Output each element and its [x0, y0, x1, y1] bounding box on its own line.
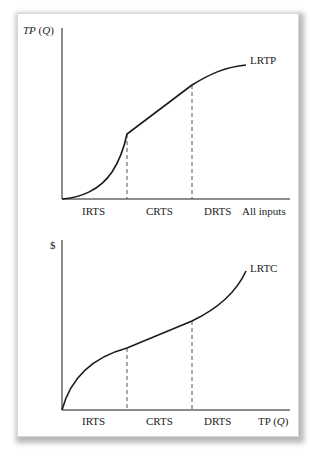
top-x-axis-label: All inputs [242, 205, 286, 217]
top-y-axis-label-q: Q [42, 24, 50, 36]
bottom-x-axis-label-q: Q [277, 415, 285, 427]
bottom-region-irts: IRTS [82, 415, 105, 427]
top-y-axis-label: TP (Q) [23, 24, 54, 36]
bottom-x-axis-label-tp: TP [258, 415, 270, 427]
top-region-irts: IRTS [82, 205, 105, 217]
bottom-x-axis-label: TP (Q) [258, 415, 288, 427]
bottom-region-drts: DRTS [204, 415, 231, 427]
lrtc-label: LRTC [250, 262, 277, 274]
top-y-axis-label-tp: TP [23, 24, 36, 36]
top-region-drts: DRTS [204, 205, 231, 217]
returns-to-scale-diagram [0, 0, 309, 452]
bottom-region-crts: CRTS [146, 415, 173, 427]
lrtc-curve [62, 271, 246, 410]
top-region-crts: CRTS [146, 205, 173, 217]
lrtp-curve [62, 65, 246, 199]
lrtp-label: LRTP [250, 54, 276, 66]
bottom-y-axis-label: $ [50, 239, 56, 251]
